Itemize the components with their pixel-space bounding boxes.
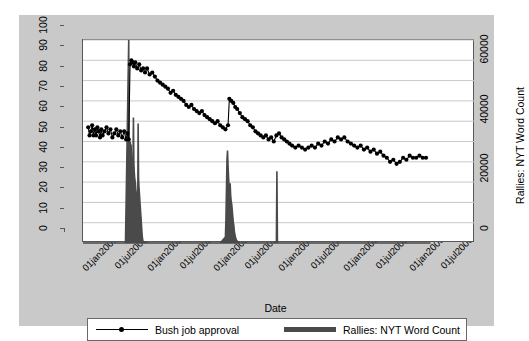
y-axis-left-tick-label: 10 xyxy=(31,202,55,214)
y-axis-left-tick-label: 100 xyxy=(31,19,55,31)
legend-key-line-marker-icon xyxy=(96,324,148,336)
y-axis-left-title: Bush job approval xyxy=(15,0,31,25)
y-axis-right-title: Rallies: NYT Word Count xyxy=(514,38,529,253)
y-axis-left-tick-mark xyxy=(60,127,64,128)
x-axis-title: Date xyxy=(19,302,529,314)
y-axis-left-tick-label: 90 xyxy=(31,39,55,51)
y-axis-left-tick-mark xyxy=(60,147,64,148)
y-axis-left-tick-label: 20 xyxy=(31,181,55,193)
y-axis-left-tick-label: 60 xyxy=(31,100,55,112)
y-axis-left-tick-label: 40 xyxy=(31,141,55,153)
y-axis-left-tick-label: 50 xyxy=(31,121,55,133)
legend-entry-bush-job-approval: Bush job approval xyxy=(96,319,239,340)
plot-svg xyxy=(83,40,475,243)
y-axis-left-tick-label: 80 xyxy=(31,60,55,72)
legend-entry-rallies-nyt-word-count: Rallies: NYT Word Count xyxy=(284,319,460,340)
plot-area xyxy=(82,39,474,242)
y-axis-left-tick-mark xyxy=(60,167,64,168)
y-axis-left-tick-mark xyxy=(60,25,64,26)
y-axis-left-tick-mark xyxy=(60,86,64,87)
y-axis-left-tick-mark xyxy=(60,187,64,188)
y-axis-left-tick-label: 0 xyxy=(31,222,55,234)
x-axis-tick-mark xyxy=(64,228,65,232)
y-axis-left-tick-mark xyxy=(60,66,64,67)
y-axis-left-tick-mark xyxy=(60,208,64,209)
y-axis-left-tick-mark xyxy=(60,45,64,46)
chart-legend: Bush job approval Rallies: NYT Word Coun… xyxy=(87,318,467,341)
y-axis-left-tick-label: 70 xyxy=(31,80,55,92)
graph-region: Bush job approval Rallies: NYT Word Coun… xyxy=(18,14,495,327)
legend-label-rallies-nyt-word-count: Rallies: NYT Word Count xyxy=(343,324,460,336)
y-axis-left-tick-mark xyxy=(60,106,64,107)
y-axis-left-tick-label: 30 xyxy=(31,161,55,173)
legend-key-thick-line-icon xyxy=(284,324,336,336)
legend-label-bush-job-approval: Bush job approval xyxy=(155,324,239,336)
